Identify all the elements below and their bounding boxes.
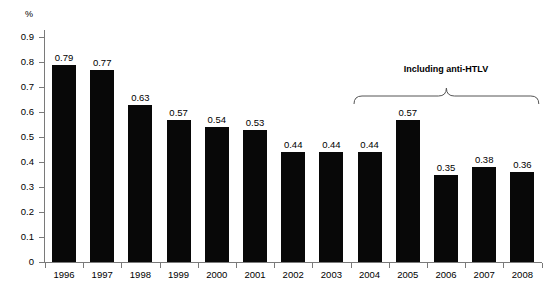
x-axis-tick [121, 263, 122, 268]
bar-value-label: 0.57 [169, 107, 188, 118]
y-axis-tick-label: 0.5 [0, 131, 34, 142]
bar[interactable]: 0.57 [396, 120, 420, 263]
y-axis-tick-label: 0.6 [0, 106, 34, 117]
x-axis-category-label: 1996 [53, 269, 74, 280]
y-axis-tick-label: 0.1 [0, 231, 34, 242]
y-axis-tick-label: 0.4 [0, 156, 34, 167]
x-axis-tick [83, 263, 84, 268]
x-axis-tick [236, 263, 237, 268]
x-axis-tick [160, 263, 161, 268]
bar-chart: % 0.90.80.70.60.50.40.30.20.10 0.790.770… [0, 0, 548, 292]
y-axis-tick-label: 0 [0, 256, 34, 267]
bar-value-label: 0.44 [284, 139, 303, 150]
x-axis-category-label: 2000 [206, 269, 227, 280]
bar-value-label: 0.36 [513, 159, 532, 170]
y-axis-tick [39, 262, 44, 263]
x-axis-category-label: 2004 [359, 269, 380, 280]
bar[interactable]: 0.44 [281, 152, 305, 262]
bar-value-label: 0.79 [55, 52, 74, 63]
bar-value-label: 0.77 [93, 57, 112, 68]
x-axis-line [44, 262, 542, 263]
x-axis-category-label: 2005 [397, 269, 418, 280]
y-axis-tick-label: 0.2 [0, 206, 34, 217]
bar[interactable]: 0.77 [90, 70, 114, 263]
x-axis-category-label: 1998 [130, 269, 151, 280]
x-axis-category-label: 2008 [512, 269, 533, 280]
bar[interactable]: 0.63 [128, 105, 152, 263]
bar-value-label: 0.57 [399, 107, 418, 118]
x-axis-tick [542, 263, 543, 268]
bar-value-label: 0.35 [437, 162, 456, 173]
x-axis-tick [427, 263, 428, 268]
bar[interactable]: 0.53 [243, 130, 267, 263]
x-axis-category-label: 1997 [92, 269, 113, 280]
x-axis-tick [45, 263, 46, 268]
x-axis-tick [274, 263, 275, 268]
bar[interactable]: 0.54 [205, 127, 229, 262]
bars-layer: 0.790.770.630.570.540.530.440.440.440.57… [44, 37, 542, 262]
x-axis-category-label: 2007 [474, 269, 495, 280]
x-axis-category-label: 2003 [321, 269, 342, 280]
bar[interactable]: 0.38 [472, 167, 496, 262]
x-axis-tick [198, 263, 199, 268]
bar-value-label: 0.44 [360, 139, 379, 150]
x-axis-tick [389, 263, 390, 268]
bar[interactable]: 0.57 [167, 120, 191, 263]
bar-value-label: 0.54 [208, 114, 227, 125]
y-axis-unit-label: % [25, 9, 33, 20]
x-axis-tick [312, 263, 313, 268]
bar[interactable]: 0.44 [358, 152, 382, 262]
bar[interactable]: 0.79 [52, 65, 76, 263]
y-axis-tick-label: 0.7 [0, 81, 34, 92]
bar-value-label: 0.38 [475, 154, 494, 165]
x-axis-category-label: 1999 [168, 269, 189, 280]
y-axis-tick-label: 0.9 [0, 31, 34, 42]
bar-value-label: 0.44 [322, 139, 341, 150]
y-axis-tick-label: 0.3 [0, 181, 34, 192]
x-axis-tick [465, 263, 466, 268]
x-axis-category-label: 2006 [435, 269, 456, 280]
x-axis-tick [351, 263, 352, 268]
bar-value-label: 0.53 [246, 117, 265, 128]
bar[interactable]: 0.44 [319, 152, 343, 262]
y-axis-tick-label: 0.8 [0, 56, 34, 67]
bar[interactable]: 0.35 [434, 175, 458, 263]
bar[interactable]: 0.36 [510, 172, 534, 262]
x-axis-tick [503, 263, 504, 268]
x-axis-category-label: 2001 [244, 269, 265, 280]
x-axis-category-label: 2002 [283, 269, 304, 280]
bar-value-label: 0.63 [131, 92, 150, 103]
